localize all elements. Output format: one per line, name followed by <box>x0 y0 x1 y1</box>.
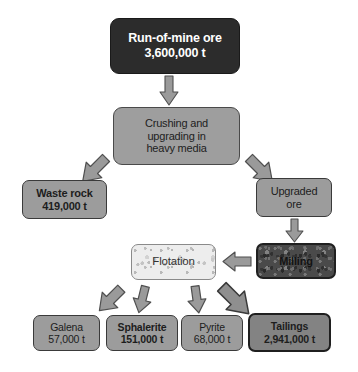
node-milling-label: Milling <box>279 255 312 268</box>
node-sphalerite-line1: Sphalerite <box>118 321 167 333</box>
flowchart-canvas: Run-of-mine ore 3,600,000 t Crushing and… <box>0 0 358 372</box>
arrow-upgraded-ore-to-milling <box>285 219 304 243</box>
node-pyrite-line2: 68,000 t <box>194 333 230 345</box>
node-crushing-line2: upgrading in <box>147 130 205 143</box>
node-galena-line2: 57,000 t <box>48 333 84 345</box>
node-run-of-mine-ore-line1: Run-of-mine ore <box>128 31 222 46</box>
node-crushing-line3: heavy media <box>146 142 206 155</box>
node-galena: Galena 57,000 t <box>33 315 100 351</box>
node-sphalerite-line2: 151,000 t <box>121 333 164 345</box>
node-crushing-upgrading: Crushing and upgrading in heavy media <box>113 107 240 165</box>
arrow-run-of-mine-to-crushing <box>159 76 179 106</box>
node-upgraded-ore-line1: Upgraded <box>271 185 318 198</box>
arrow-milling-to-flotation <box>222 251 252 272</box>
node-run-of-mine-ore: Run-of-mine ore 3,600,000 t <box>110 18 240 74</box>
node-upgraded-ore: Upgraded ore <box>256 178 332 217</box>
node-milling: Milling <box>256 243 336 279</box>
node-galena-line1: Galena <box>50 321 83 333</box>
node-crushing-line1: Crushing and <box>145 117 208 130</box>
node-waste-rock-line1: Waste rock <box>36 187 92 200</box>
node-pyrite: Pyrite 68,000 t <box>181 315 243 351</box>
node-sphalerite: Sphalerite 151,000 t <box>106 315 178 351</box>
node-tailings: Tailings 2,941,000 t <box>248 313 331 352</box>
node-upgraded-ore-line2: ore <box>286 198 301 211</box>
arrow-flotation-to-galena <box>93 283 127 317</box>
node-tailings-line2: 2,941,000 t <box>264 333 315 345</box>
node-waste-rock: Waste rock 419,000 t <box>22 180 107 219</box>
arrow-flotation-to-pyrite <box>186 286 208 314</box>
node-flotation-label: Flotation <box>152 255 194 269</box>
node-waste-rock-line2: 419,000 t <box>42 200 87 213</box>
node-flotation: Flotation <box>131 244 216 280</box>
node-run-of-mine-ore-line2: 3,600,000 t <box>144 46 205 61</box>
node-tailings-line1: Tailings <box>271 320 308 332</box>
arrow-flotation-to-sphalerite <box>131 286 153 314</box>
node-pyrite-line1: Pyrite <box>199 321 225 333</box>
